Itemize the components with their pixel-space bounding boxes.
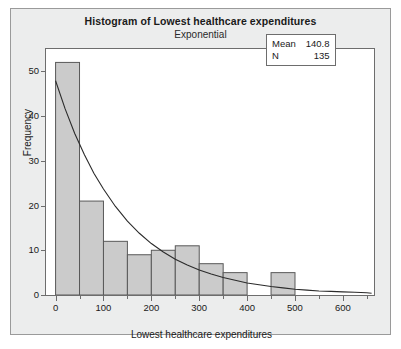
x-tick-mark (151, 296, 152, 301)
stats-key: N (272, 50, 306, 62)
x-tick-label: 400 (227, 302, 267, 313)
y-tick-label: 20 (15, 200, 39, 211)
x-minor-tick-mark (367, 296, 368, 299)
x-minor-tick-mark (319, 296, 320, 299)
histogram-bar (103, 241, 127, 295)
stats-value: 135 (306, 50, 330, 62)
stats-row: Mean140.8 (272, 38, 330, 50)
x-tick-mark (295, 296, 296, 301)
histogram-bar (175, 246, 199, 295)
y-tick-label: 0 (15, 289, 39, 300)
y-tick-mark (41, 250, 45, 251)
y-tick-label: 30 (15, 155, 39, 166)
stats-legend-box: Mean140.8N135 (266, 34, 336, 66)
x-tick-label: 500 (275, 302, 315, 313)
x-tick-label: 0 (36, 302, 76, 313)
y-tick-mark (41, 161, 45, 162)
plot-area (45, 48, 375, 296)
y-tick-mark (41, 116, 45, 117)
x-minor-tick-mark (271, 296, 272, 299)
y-axis-label: Frequency (22, 73, 33, 193)
x-tick-mark (199, 296, 200, 301)
y-tick-mark (41, 295, 45, 296)
stats-key: Mean (272, 38, 306, 50)
x-tick-mark (103, 296, 104, 301)
histogram-bars (56, 62, 295, 295)
x-tick-mark (343, 296, 344, 301)
histogram-bar (199, 264, 223, 295)
histogram-bar (127, 255, 151, 295)
x-tick-label: 200 (131, 302, 171, 313)
x-tick-mark (247, 296, 248, 301)
x-minor-tick-mark (223, 296, 224, 299)
x-tick-mark (56, 296, 57, 301)
x-axis-label: Lowest healthcare expenditures (11, 329, 392, 340)
x-tick-label: 300 (179, 302, 219, 313)
histogram-bar (223, 273, 247, 295)
stats-value: 140.8 (306, 38, 330, 50)
x-minor-tick-mark (80, 296, 81, 299)
chart-title: Histogram of Lowest healthcare expenditu… (11, 15, 390, 28)
histogram-bar (80, 201, 104, 295)
histogram-figure: Histogram of Lowest healthcare expenditu… (0, 0, 401, 349)
x-tick-label: 600 (323, 302, 363, 313)
stats-row: N135 (272, 50, 330, 62)
y-tick-label: 50 (15, 65, 39, 76)
x-minor-tick-mark (175, 296, 176, 299)
x-minor-tick-mark (127, 296, 128, 299)
histogram-bar (56, 62, 80, 295)
y-tick-mark (41, 71, 45, 72)
y-tick-label: 10 (15, 244, 39, 255)
chart-panel: Histogram of Lowest healthcare expenditu… (10, 8, 391, 335)
stats-table: Mean140.8N135 (272, 38, 330, 62)
x-tick-label: 100 (83, 302, 123, 313)
y-tick-label: 40 (15, 110, 39, 121)
y-tick-mark (41, 206, 45, 207)
histogram-bar (271, 273, 295, 295)
plot-svg (46, 49, 374, 295)
